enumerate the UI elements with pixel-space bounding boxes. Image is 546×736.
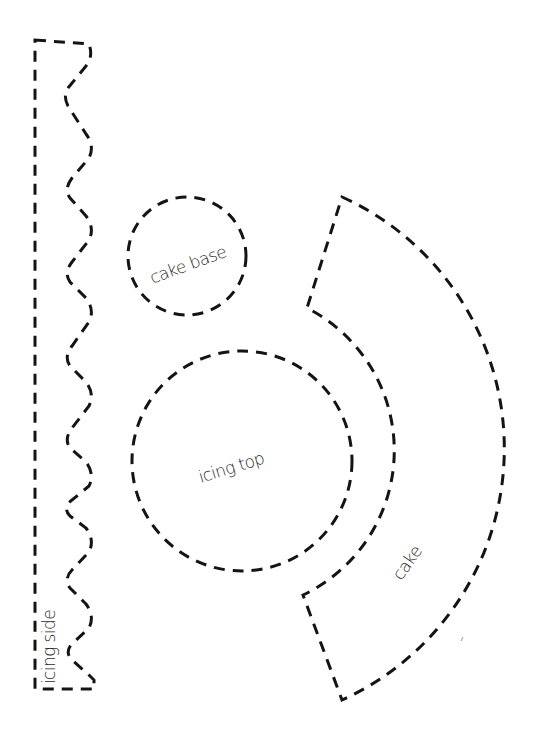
icing-top-piece: icing top [132,351,352,571]
cake-piece: cake [303,197,504,700]
cake-base-piece: cake base [128,197,246,315]
cake-label: cake [388,542,426,584]
icing-side-outline [35,40,94,689]
icing-side-piece: icing side [35,40,94,689]
cake-template-sheet: icing side cake base icing top cake [0,0,546,736]
icing-side-label: icing side [39,610,59,684]
cake-base-label: cake base [147,241,229,287]
cake-outline [303,197,504,700]
stray-mark [461,637,463,641]
icing-top-label: icing top [196,448,267,487]
